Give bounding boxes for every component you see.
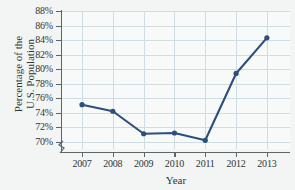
x-axis-tick-label: 2013 [250, 159, 284, 169]
x-axis-tick-label: 2010 [157, 159, 191, 169]
line-chart-figure: Percentage of the U.S. Population Year 8… [0, 0, 295, 190]
x-axis-tick-label: 2011 [188, 159, 222, 169]
y-axis-tick [56, 127, 62, 128]
x-axis-tick [267, 152, 268, 157]
x-axis-tick [174, 152, 175, 157]
y-axis-tick-label: 76% [7, 93, 53, 103]
y-axis-tick-label: 80% [7, 64, 53, 74]
data-point-marker [203, 138, 208, 143]
y-axis-tick-label: 86% [7, 21, 53, 31]
data-point-marker [264, 35, 269, 40]
data-point-marker [233, 71, 238, 76]
x-axis-title: Year [62, 175, 290, 186]
x-axis-tick-label: 2007 [65, 159, 99, 169]
data-point-marker [110, 109, 115, 114]
x-axis-tick-label: 2012 [219, 159, 253, 169]
data-point-marker [141, 131, 146, 136]
data-point-marker [172, 130, 177, 135]
y-axis-tick-label: 70% [7, 137, 53, 147]
y-axis-tick [56, 55, 62, 56]
x-axis-tick-label: 2009 [127, 159, 161, 169]
x-axis-tick [82, 152, 83, 157]
y-axis-tick-label: 72% [7, 122, 53, 132]
series-polyline [82, 38, 267, 140]
x-axis-tick [236, 152, 237, 157]
x-axis-tick [113, 152, 114, 157]
y-axis-tick [56, 11, 62, 12]
x-axis-tick [144, 152, 145, 157]
y-axis-tick [56, 84, 62, 85]
y-axis-tick [56, 26, 62, 27]
y-axis-tick [56, 98, 62, 99]
y-axis-tick-label: 74% [7, 108, 53, 118]
x-axis-tick [205, 152, 206, 157]
y-axis-tick-label: 88% [7, 6, 53, 16]
y-axis-tick [56, 142, 62, 143]
y-axis-tick-label: 84% [7, 35, 53, 45]
y-axis-tick-label: 78% [7, 79, 53, 89]
y-axis-tick [56, 40, 62, 41]
y-axis-tick-label: 82% [7, 50, 53, 60]
y-axis-tick [56, 69, 62, 70]
y-axis-tick [56, 113, 62, 114]
data-point-marker [79, 102, 84, 107]
x-axis-tick-label: 2008 [96, 159, 130, 169]
